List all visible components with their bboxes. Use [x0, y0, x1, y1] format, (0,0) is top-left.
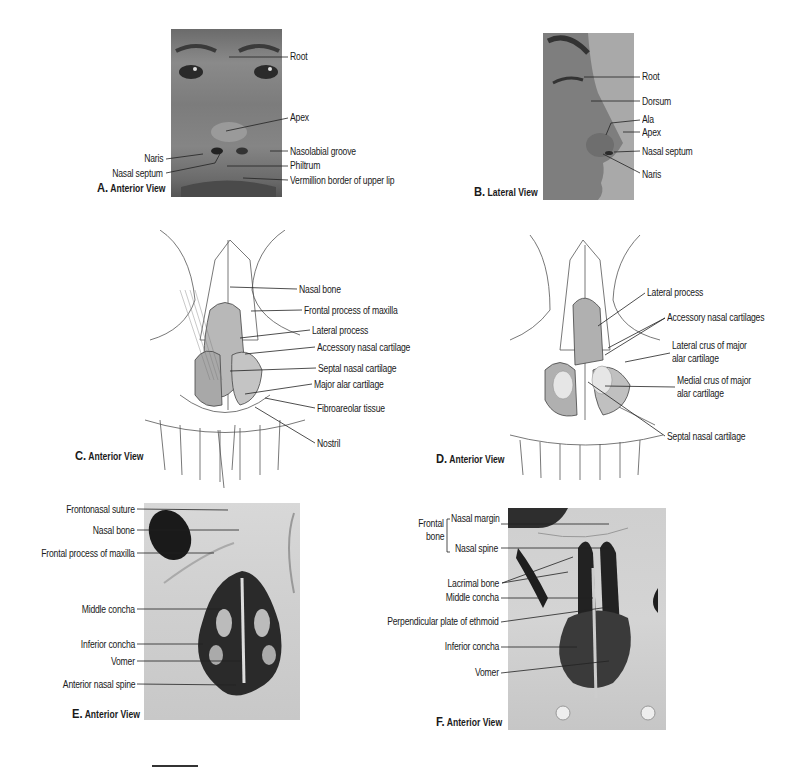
caption-a: A. Anterior View — [97, 180, 166, 195]
label-philtrum: Philtrum — [290, 160, 320, 171]
panel-e-photo — [144, 503, 300, 720]
face-anterior-illustration — [171, 29, 282, 197]
label-apex: Apex — [642, 127, 661, 138]
caption-d: D. Anterior View — [436, 451, 505, 466]
label-vomer: Vomer — [111, 656, 135, 667]
caption-text: Anterior View — [88, 451, 143, 462]
label-septal-nasal-cartilage: Septal nasal cartilage — [318, 363, 396, 374]
label-inferior-concha: Inferior concha — [81, 639, 135, 650]
label-major-alar-cartilage: Major alar cartilage — [314, 379, 384, 390]
label-frontonasal-suture: Frontonasal suture — [66, 504, 135, 515]
label-lateral-process: Lateral process — [312, 325, 368, 336]
panel-d-drawing — [505, 230, 665, 480]
label-fibroareolar-tissue: Fibroareolar tissue — [317, 403, 385, 414]
label-medial-crus-line2: alar cartilage — [677, 388, 724, 399]
label-root: Root — [290, 51, 307, 62]
label-naris: Naris — [642, 169, 661, 180]
caption-text: Anterior View — [110, 183, 165, 194]
caption-letter: D. — [436, 451, 447, 466]
caption-text: Lateral View — [488, 187, 538, 198]
caption-b: B. Lateral View — [474, 184, 538, 199]
label-accessory-nasal-cartilage: Accessory nasal cartilage — [317, 342, 410, 353]
label-nasal-septum: Nasal septum — [112, 168, 163, 179]
caption-letter: F. — [436, 714, 445, 729]
label-lacrimal-bone: Lacrimal bone — [447, 578, 499, 589]
label-root: Root — [642, 71, 659, 82]
label-medial-crus-line1: Medial crus of major — [677, 375, 751, 386]
skull-nasal-bones-removed-illustration — [508, 508, 666, 730]
caption-letter: B. — [474, 184, 485, 199]
label-frontal-process-maxilla: Frontal process of maxilla — [41, 548, 135, 559]
caption-letter: A. — [97, 180, 108, 195]
label-ala: Ala — [642, 114, 654, 125]
panel-a-photo — [171, 29, 282, 197]
caption-text: Anterior View — [447, 717, 502, 728]
caption-e: E. Anterior View — [72, 706, 140, 721]
caption-f: F. Anterior View — [436, 714, 502, 729]
skull-aperture-illustration — [144, 503, 300, 720]
label-nostril: Nostril — [317, 438, 340, 449]
nasal-cartilage-retracted-drawing — [505, 230, 665, 480]
label-vomer: Vomer — [475, 667, 499, 678]
label-nasal-bone: Nasal bone — [93, 525, 135, 536]
label-vermillion-border: Vermillion border of upper lip — [290, 175, 394, 186]
caption-letter: E. — [72, 706, 83, 721]
face-lateral-illustration — [543, 33, 634, 200]
label-frontal-bone-group-line2: bone — [426, 531, 444, 542]
label-inferior-concha: Inferior concha — [445, 641, 499, 652]
panel-c-drawing — [140, 230, 310, 488]
label-nasolabial-groove: Nasolabial groove — [290, 146, 356, 157]
label-anterior-nasal-spine: Anterior nasal spine — [62, 679, 135, 690]
panel-f-photo — [508, 508, 666, 730]
label-perpendicular-plate-ethmoid: Perpendicular plate of ethmoid — [388, 616, 499, 627]
caption-text: Anterior View — [85, 709, 140, 720]
label-nasal-spine: Nasal spine — [455, 543, 498, 554]
scale-bar — [152, 765, 198, 767]
caption-letter: C. — [75, 448, 86, 463]
label-lateral-crus-line2: alar cartilage — [672, 353, 719, 364]
caption-text: Anterior View — [449, 454, 504, 465]
label-nasal-bone: Nasal bone — [299, 284, 341, 295]
label-lateral-process: Lateral process — [647, 287, 703, 298]
caption-c: C. Anterior View — [75, 448, 144, 463]
label-middle-concha: Middle concha — [446, 592, 499, 603]
label-dorsum: Dorsum — [642, 96, 671, 107]
panel-b-photo — [543, 33, 634, 200]
label-lateral-crus-line1: Lateral crus of major — [672, 340, 747, 351]
label-apex: Apex — [290, 112, 309, 123]
label-frontal-bone-group-line1: Frontal — [418, 518, 444, 529]
label-frontal-process-maxilla: Frontal process of maxilla — [304, 305, 398, 316]
nasal-cartilage-drawing — [140, 230, 310, 488]
label-naris: Naris — [144, 153, 163, 164]
label-septal-nasal-cartilage: Septal nasal cartilage — [667, 431, 745, 442]
label-nasal-septum: Nasal septum — [642, 146, 693, 157]
label-middle-concha: Middle concha — [82, 604, 135, 615]
label-accessory-nasal-cartilages: Accessory nasal cartilages — [667, 312, 764, 323]
label-nasal-margin: Nasal margin — [451, 513, 500, 524]
